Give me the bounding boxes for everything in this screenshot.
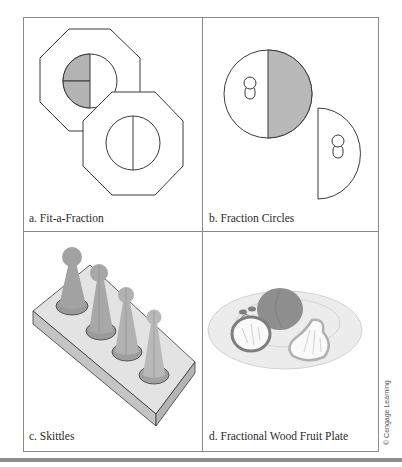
bottom-rule bbox=[0, 458, 402, 462]
copyright-credit: © Cengage Learning bbox=[383, 380, 390, 445]
caption-fruit-plate: d. Fractional Wood Fruit Plate bbox=[209, 430, 348, 442]
fruit-plate-illustration bbox=[0, 0, 402, 467]
